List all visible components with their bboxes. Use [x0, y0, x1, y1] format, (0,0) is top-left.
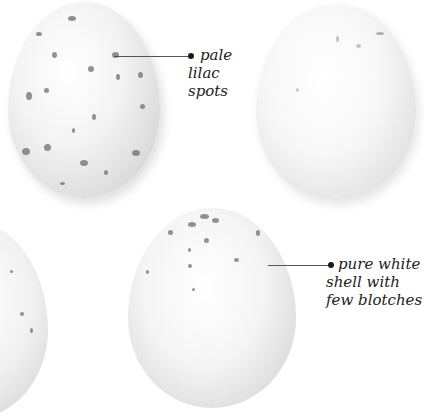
annotation-pale-lilac-spots: pale lilac spots	[188, 46, 232, 100]
plain-egg-top-right	[256, 4, 416, 200]
annotation-line: spots	[188, 82, 232, 100]
leader-line-pure-white	[268, 265, 332, 266]
speckled-egg-top-left	[8, 2, 160, 198]
annotation-line: pale	[188, 46, 232, 64]
speckled-egg-bottom-left	[0, 220, 48, 417]
annotation-pure-white-shell: pure white shell with few blotches	[326, 255, 422, 309]
annotation-line: few blotches	[326, 291, 422, 309]
annotation-line: shell with	[326, 273, 422, 291]
blotched-egg-bottom-middle	[128, 208, 296, 408]
annotation-line: pure white	[326, 255, 422, 273]
annotation-line: lilac	[188, 64, 232, 82]
leader-line-pale-lilac	[114, 56, 190, 57]
